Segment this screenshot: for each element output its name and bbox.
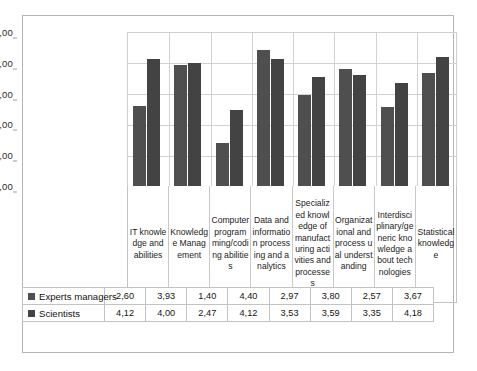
data-value-cell: 1,40 xyxy=(187,288,228,304)
bar-group xyxy=(376,33,417,186)
bar xyxy=(188,63,201,186)
bar xyxy=(422,73,435,186)
y-axis-tick-label: 2,00 xyxy=(0,119,13,130)
category-separator xyxy=(169,33,170,186)
category-label-strip: IT knowledge and abilitiesKnowledge Mana… xyxy=(127,186,457,303)
y-axis-tick-mark xyxy=(13,68,17,69)
data-value-cell: 4,12 xyxy=(105,305,146,321)
category-separator xyxy=(293,33,294,186)
category-label: Statistical knowledge xyxy=(416,186,456,302)
y-axis-tick-label: 3,00 xyxy=(0,88,13,99)
table-row: Experts managers2,603,931,404,402,973,80… xyxy=(23,288,433,305)
data-value-cell: 3,35 xyxy=(352,305,393,321)
category-label: Computer programming/coding abilities xyxy=(210,186,251,302)
bar xyxy=(312,77,325,186)
category-separator xyxy=(334,33,335,186)
data-value-cell: 3,93 xyxy=(146,288,187,304)
data-value-cell: 2,97 xyxy=(270,288,311,304)
bar xyxy=(436,57,449,186)
bar xyxy=(395,83,408,186)
data-value-cell: 2,47 xyxy=(187,305,228,321)
category-label: Organizational and process ual understan… xyxy=(334,186,375,302)
bar-group xyxy=(252,33,293,186)
category-label: Knowledge Management xyxy=(169,186,210,302)
y-axis-tick-mark xyxy=(13,161,17,162)
y-axis: 0,001,002,003,004,005,00 xyxy=(0,32,17,186)
y-axis-tick-label: 1,00 xyxy=(0,150,13,161)
bar xyxy=(257,50,270,186)
data-value-cell: 2,60 xyxy=(105,288,146,304)
y-axis-tick-mark xyxy=(13,130,17,131)
bar xyxy=(271,59,284,186)
category-separator xyxy=(252,33,253,186)
bar xyxy=(174,65,187,186)
y-axis-tick-label: 0,00 xyxy=(0,181,13,192)
y-axis-tick-mark xyxy=(13,192,17,193)
data-value-cell: 4,00 xyxy=(146,305,187,321)
table-row: Scientists4,124,002,474,123,533,593,354,… xyxy=(23,305,433,322)
bar-group xyxy=(211,33,252,186)
legend-entry[interactable]: Experts managers xyxy=(23,288,105,304)
category-label: Interdisciplinary/generic knowledge abou… xyxy=(375,186,416,302)
plot-area xyxy=(127,32,457,186)
category-label: IT knowledge and abilities xyxy=(128,186,169,302)
bar xyxy=(230,110,243,186)
category-separator xyxy=(211,33,212,186)
bar-group xyxy=(128,33,169,186)
bar xyxy=(133,106,146,186)
bar xyxy=(216,143,229,186)
bar-group xyxy=(417,33,458,186)
data-value-cell: 2,57 xyxy=(352,288,393,304)
legend-entry[interactable]: Scientists xyxy=(23,305,105,321)
y-axis-tick-mark xyxy=(13,99,17,100)
legend-swatch-icon xyxy=(28,310,35,317)
y-axis-tick-mark xyxy=(13,38,17,39)
data-value-cell: 4,18 xyxy=(393,305,433,321)
legend-swatch-icon xyxy=(28,293,35,300)
bar-group xyxy=(169,33,210,186)
plot-region xyxy=(127,32,457,186)
series-name: Scientists xyxy=(39,308,80,319)
data-value-cell: 3,80 xyxy=(311,288,352,304)
bar-group xyxy=(334,33,375,186)
data-value-cell: 4,12 xyxy=(228,305,269,321)
bar xyxy=(298,95,311,186)
data-value-cell: 3,67 xyxy=(393,288,433,304)
category-separator xyxy=(376,33,377,186)
bar xyxy=(353,75,366,186)
bar xyxy=(147,59,160,186)
category-label: Specialized knowledge of manufacturing a… xyxy=(293,186,334,302)
data-value-cell: 3,53 xyxy=(270,305,311,321)
bar xyxy=(381,107,394,186)
data-value-cell: 3,59 xyxy=(311,305,352,321)
category-label: Data and information processing and anal… xyxy=(251,186,292,302)
bar xyxy=(339,69,352,186)
y-axis-tick-label: 4,00 xyxy=(0,57,13,68)
bar-group xyxy=(293,33,334,186)
y-axis-tick-label: 5,00 xyxy=(0,27,13,38)
category-separator xyxy=(417,33,418,186)
data-value-cell: 4,40 xyxy=(228,288,269,304)
data-table: Experts managers2,603,931,404,402,973,80… xyxy=(22,287,434,322)
